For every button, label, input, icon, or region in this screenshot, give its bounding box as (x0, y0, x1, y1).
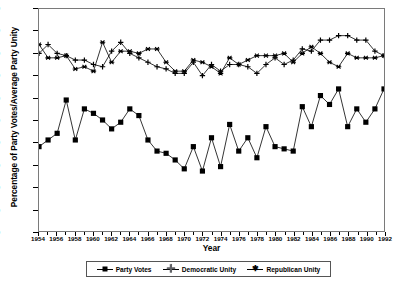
x-tick-mark (285, 232, 286, 235)
x-tick-label: 1986 (323, 235, 337, 242)
asterisk-marker-icon: ✱ (247, 265, 263, 274)
x-tick-mark (321, 232, 322, 235)
y-tick-mark (33, 30, 38, 31)
legend-label: Party Votes (116, 266, 152, 273)
chart-legend: Party Votes ➕ Democratic Unity ✱ Republi… (86, 261, 331, 277)
x-tick-label: 1956 (49, 235, 63, 242)
chart-figure: Percentage of Party Votes/Average Party … (0, 0, 413, 294)
y-tick-mark (33, 187, 38, 188)
x-tick-label: 1954 (31, 235, 45, 242)
x-tick-mark (47, 232, 48, 235)
x-tick-label: 1960 (86, 235, 100, 242)
x-tick-label: 1970 (177, 235, 191, 242)
x-tick-label: 1990 (360, 235, 374, 242)
series-democratic-unity (39, 33, 384, 78)
x-tick-label: 1962 (104, 235, 118, 242)
legend-item-democratic-unity: ➕ Democratic Unity (163, 265, 236, 274)
plus-marker-icon: ➕ (163, 265, 179, 274)
y-tick-mark (33, 53, 38, 54)
y-tick-mark (33, 165, 38, 166)
x-tick-label: 1972 (195, 235, 209, 242)
x-tick-label: 1992 (378, 235, 392, 242)
legend-label: Republican Unity (266, 266, 320, 273)
legend-label: Democratic Unity (182, 266, 236, 273)
y-tick-mark (33, 120, 38, 121)
series-republican-unity (39, 40, 384, 75)
x-tick-mark (138, 232, 139, 235)
plot-canvas (39, 9, 384, 231)
filled-square-icon (97, 265, 113, 274)
x-tick-mark (212, 232, 213, 235)
x-tick-mark (248, 232, 249, 235)
x-axis-title: Year (36, 243, 387, 253)
plot-area (38, 8, 385, 232)
x-tick-mark (303, 232, 304, 235)
series-party-votes (39, 86, 384, 173)
x-tick-label: 1966 (141, 235, 155, 242)
x-tick-label: 1974 (214, 235, 228, 242)
x-tick-mark (230, 232, 231, 235)
x-tick-label: 1968 (159, 235, 173, 242)
y-axis-title: Percentage of Party Votes/Average Party … (9, 0, 19, 235)
x-tick-mark (376, 232, 377, 235)
x-tick-label: 1964 (122, 235, 136, 242)
x-tick-mark (102, 232, 103, 235)
y-tick-mark (33, 8, 38, 9)
x-tick-mark (193, 232, 194, 235)
x-tick-mark (175, 232, 176, 235)
x-tick-mark (84, 232, 85, 235)
y-tick-mark (33, 210, 38, 211)
legend-item-party-votes: Party Votes (97, 265, 152, 274)
x-tick-mark (120, 232, 121, 235)
x-tick-label: 1958 (68, 235, 82, 242)
x-tick-label: 1988 (342, 235, 356, 242)
x-tick-mark (65, 232, 66, 235)
x-tick-mark (157, 232, 158, 235)
x-tick-label: 1976 (232, 235, 246, 242)
x-tick-label: 1980 (269, 235, 283, 242)
x-tick-label: 1982 (287, 235, 301, 242)
y-tick-mark (33, 75, 38, 76)
x-tick-mark (358, 232, 359, 235)
x-tick-mark (339, 232, 340, 235)
legend-item-republican-unity: ✱ Republican Unity (247, 265, 320, 274)
x-tick-mark (266, 232, 267, 235)
y-tick-mark (33, 98, 38, 99)
x-tick-label: 1984 (305, 235, 319, 242)
x-tick-label: 1978 (250, 235, 264, 242)
y-tick-mark (33, 142, 38, 143)
